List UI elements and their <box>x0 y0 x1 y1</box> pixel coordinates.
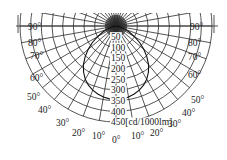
angle-label-left-20: 20° <box>72 128 86 138</box>
spoke <box>54 0 116 26</box>
angle-label-right-40: 40° <box>182 108 196 118</box>
angle-label-right-90: 90° <box>190 22 204 32</box>
angle-label-right-70: 70° <box>188 52 202 62</box>
angle-label-right-80: 80° <box>188 38 202 48</box>
angle-label-right-10: 10° <box>131 131 145 141</box>
radial-label-250: 250 <box>111 75 126 85</box>
radial-label-300: 300 <box>111 85 126 95</box>
radial-label-200: 200 <box>111 64 126 74</box>
angle-label-left-80: 80° <box>28 38 42 48</box>
angle-label-left-30: 30° <box>56 118 70 128</box>
angle-label-right-50: 50° <box>191 95 205 105</box>
spoke <box>33 0 116 26</box>
radial-label-450: 450[cd/1000lm] <box>111 117 172 127</box>
polar-light-distribution-chart: 50100150200250300350400450[cd/1000lm] 90… <box>0 0 227 160</box>
angle-label-right-30: 30° <box>168 119 182 129</box>
radial-tick-labels: 50100150200250300350400450[cd/1000lm] <box>110 32 181 127</box>
radial-label-100: 100 <box>111 43 126 53</box>
radial-label-150: 150 <box>111 53 126 63</box>
angle-label-right-60: 60° <box>188 70 202 80</box>
radial-label-400: 400 <box>111 107 126 117</box>
radial-label-350: 350 <box>111 96 126 106</box>
angle-label-left-10: 10° <box>92 131 106 141</box>
angle-label-right-20: 20° <box>150 128 164 138</box>
angle-label-left-70: 70° <box>30 51 44 61</box>
angle-label-left-40: 40° <box>38 105 52 115</box>
spoke <box>116 0 199 26</box>
angle-label-left-50: 50° <box>27 92 41 102</box>
radial-label-50: 50 <box>111 32 121 42</box>
angle-label-left-60: 60° <box>30 73 44 83</box>
spoke <box>116 0 178 26</box>
angle-label-left-90: 90° <box>28 22 42 32</box>
angle-label-0: 0° <box>112 135 121 145</box>
